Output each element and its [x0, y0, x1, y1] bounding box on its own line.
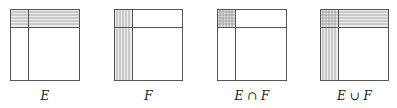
panel-E-union-F [320, 9, 389, 81]
label-F: F [114, 89, 184, 103]
label-E-intersect-F: E ∩ F [217, 89, 287, 103]
panel-E-intersect-F [217, 9, 287, 81]
label-E: E [10, 89, 80, 103]
label-E-union-F: E ∪ F [320, 89, 390, 103]
panel-F [114, 9, 183, 81]
panel-E [10, 9, 80, 81]
